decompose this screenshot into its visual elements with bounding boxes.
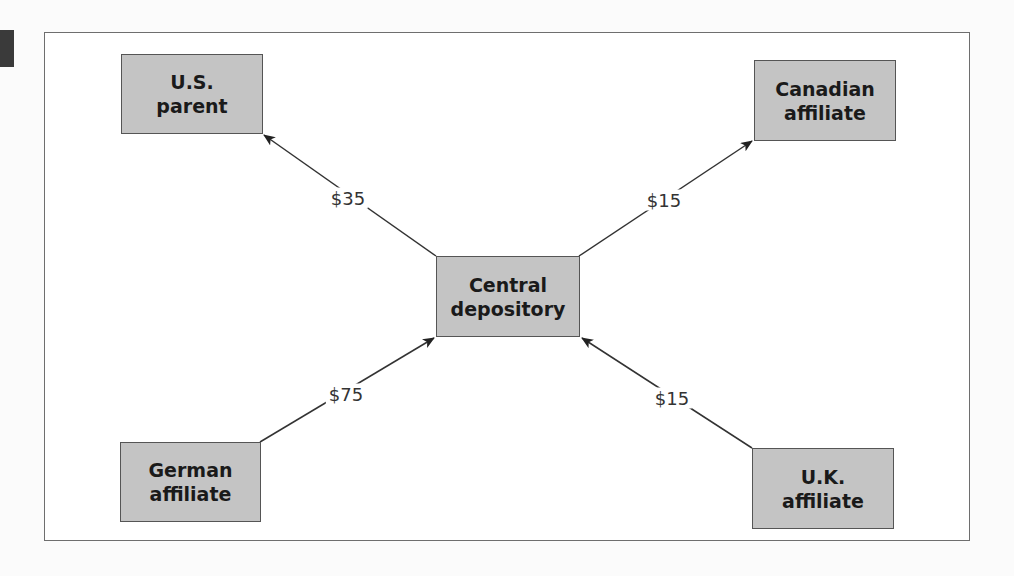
node-label-line1: U.S. [156, 70, 227, 94]
node-label-line1: Canadian [775, 77, 875, 101]
node-label-line1: Central [451, 273, 566, 297]
node-us-parent: U.S. parent [121, 54, 263, 134]
flow-label-german-affiliate: $75 [326, 384, 366, 405]
flow-label-uk-affiliate: $15 [652, 388, 692, 409]
node-central-depository: Central depository [436, 256, 580, 337]
node-label-line2: affiliate [149, 482, 233, 506]
node-label-line2: affiliate [782, 489, 864, 513]
node-canadian-affiliate: Canadian affiliate [754, 60, 896, 141]
node-label-line2: parent [156, 94, 227, 118]
node-german-affiliate: German affiliate [120, 442, 261, 522]
node-label-line1: German [149, 458, 233, 482]
flow-label-us-parent: $35 [328, 188, 368, 209]
flow-label-canadian-affiliate: $15 [644, 190, 684, 211]
node-uk-affiliate: U.K. affiliate [752, 448, 894, 529]
node-label-line2: depository [451, 297, 566, 321]
node-label-line2: affiliate [775, 101, 875, 125]
node-label-line1: U.K. [782, 465, 864, 489]
